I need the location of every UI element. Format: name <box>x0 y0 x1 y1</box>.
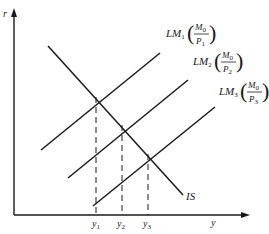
lm2-open-paren: ( <box>214 48 221 73</box>
y1-label: y1 <box>91 218 100 231</box>
x-axis-arrow-icon <box>241 212 250 218</box>
svg-text:P3: P3 <box>248 94 259 106</box>
svg-text:LM3: LM3 <box>218 85 238 99</box>
svg-text:M0: M0 <box>194 22 207 34</box>
lm2-label: LM2 ( M0 P2 ) <box>192 48 243 76</box>
svg-text:M0: M0 <box>247 80 260 92</box>
x-axis-label: y <box>210 217 216 228</box>
svg-text:LM1: LM1 <box>165 27 185 41</box>
lm2-close-paren: ) <box>236 48 243 73</box>
is-lm-diagram: r y IS LM1 ( M0 P1 ) LM2 ( M0 P2 ) LM3 (… <box>0 0 269 234</box>
lm1-close-paren: ) <box>209 20 216 45</box>
lm3-curve <box>93 107 215 206</box>
svg-text:P1: P1 <box>195 36 206 48</box>
y3-label: y3 <box>142 218 151 231</box>
lm1-label: LM1 ( M0 P1 ) <box>165 20 216 48</box>
y2-label: y2 <box>116 218 125 231</box>
lm1-curve <box>41 53 160 150</box>
svg-text:LM2: LM2 <box>192 55 212 69</box>
lm3-label: LM3 ( M0 P3 ) <box>218 78 269 106</box>
lm3-close-paren: ) <box>262 78 269 103</box>
svg-text:P2: P2 <box>222 64 233 76</box>
y-axis-arrow-icon <box>11 8 17 17</box>
y-axis-label: r <box>3 8 7 19</box>
svg-text:M0: M0 <box>221 50 234 62</box>
lm1-open-paren: ( <box>187 20 194 45</box>
lm2-curve <box>68 80 188 178</box>
is-curve <box>48 46 183 195</box>
is-curve-label: IS <box>185 190 196 202</box>
lm3-open-paren: ( <box>240 78 247 103</box>
